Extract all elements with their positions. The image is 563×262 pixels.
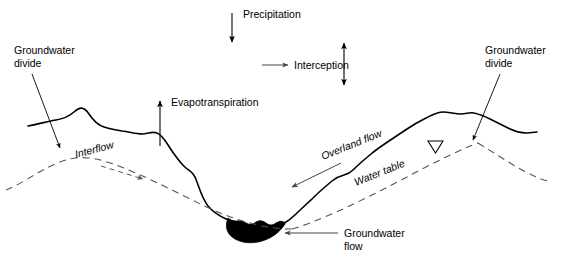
- water-table-line-right: [292, 143, 478, 229]
- ground-surface-line-right: [283, 112, 537, 224]
- water-table-label: Water table: [352, 157, 406, 188]
- groundwater-flow-label-line2: flow: [344, 240, 363, 252]
- groundwater-divide-right-label-line1: Groundwater: [485, 44, 546, 56]
- overland-flow-arrow: [292, 163, 341, 187]
- groundwater-divide-left-label-line2: divide: [14, 57, 42, 69]
- water-table-line: [6, 158, 292, 229]
- diagram-canvas: Precipitation Interception Evapotranspir…: [0, 0, 563, 262]
- hydrology-diagram: Precipitation Interception Evapotranspir…: [0, 0, 563, 262]
- precipitation-label: Precipitation: [243, 8, 301, 20]
- interflow-label: Interflow: [73, 138, 116, 160]
- overland-flow-label: Overland flow: [319, 126, 384, 162]
- groundwater-divide-left-label-line1: Groundwater: [14, 44, 75, 56]
- water-table-symbol-icon: [428, 141, 443, 153]
- interflow-arrow: [101, 166, 143, 179]
- stream-channel: [226, 218, 285, 243]
- interception-label: Interception: [294, 59, 349, 71]
- groundwater-flow-label-line1: Groundwater: [344, 227, 405, 239]
- ground-surface-line: [28, 108, 240, 223]
- evapotranspiration-label: Evapotranspiration: [171, 96, 259, 108]
- groundwater-divide-right-label-line2: divide: [485, 57, 513, 69]
- groundwater-divide-right-leader: [473, 74, 500, 140]
- groundwater-divide-left-leader: [32, 74, 60, 148]
- water-table-line-right-descending: [478, 143, 552, 182]
